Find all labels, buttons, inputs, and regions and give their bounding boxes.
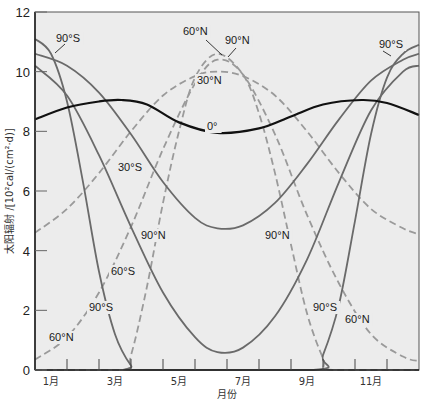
x-axis-title: 月份 — [217, 389, 237, 400]
curve-label: 60°N — [183, 25, 208, 37]
x-tick-label: 5月 — [171, 376, 187, 387]
curve-label: 90°N — [225, 34, 250, 46]
y-tick-label: 6 — [23, 184, 30, 199]
curve-label: 0° — [207, 120, 218, 132]
y-tick-label: 10 — [16, 65, 30, 80]
curve-label: 90°S — [379, 38, 403, 50]
y-tick-label: 0 — [23, 363, 30, 378]
x-tick-label: 11月 — [360, 376, 383, 387]
curve-label: 90°N — [141, 229, 166, 241]
curve-label: 90°N — [265, 229, 290, 241]
curve-label: 90°S — [313, 301, 337, 313]
curve-label: 90°S — [89, 301, 113, 313]
y-tick-label: 4 — [23, 244, 30, 259]
curve-label: 90°S — [56, 32, 80, 44]
solar-radiation-chart: 0246810121月3月5月7月9月11月 90°S60°N90°N30°N0… — [0, 0, 427, 406]
x-tick-label: 9月 — [299, 376, 315, 387]
curve-label: 60°N — [345, 313, 370, 325]
y-tick-label: 8 — [23, 124, 30, 139]
x-tick-label: 7月 — [235, 376, 251, 387]
curve-label: 60°N — [49, 331, 74, 343]
x-tick-label: 3月 — [107, 376, 123, 387]
curve-label: 60°S — [111, 265, 135, 277]
curve-label: 30°S — [118, 161, 142, 173]
x-tick-label: 1月 — [43, 376, 59, 387]
y-tick-label: 12 — [16, 5, 30, 20]
curve-label: 30°N — [197, 74, 222, 86]
y-axis-title: 太阳辐射 /[10²cal/(cm²·d)] — [3, 128, 15, 254]
y-tick-label: 2 — [23, 303, 30, 318]
